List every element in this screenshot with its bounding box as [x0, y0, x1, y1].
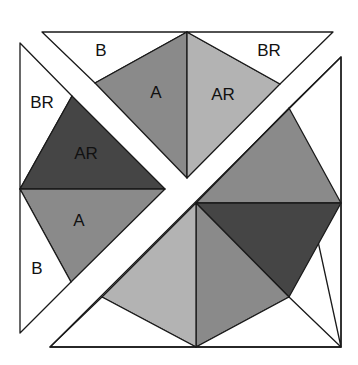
label-top-AR: AR	[211, 85, 235, 104]
label-left-A: A	[73, 211, 85, 230]
label-top-B: B	[95, 41, 106, 60]
label-top-BR: BR	[257, 41, 281, 60]
quilt-block-diagram: B A AR BR BR AR A B	[0, 0, 358, 365]
label-left-B: B	[31, 259, 42, 278]
label-left-BR: BR	[30, 93, 54, 112]
label-left-AR: AR	[74, 144, 98, 163]
label-top-A: A	[150, 83, 162, 102]
